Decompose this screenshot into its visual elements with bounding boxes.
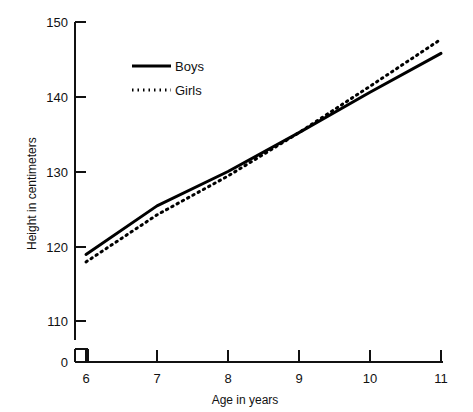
x-tick-label-8: 8 (224, 371, 231, 386)
y-tick-label-130: 130 (46, 165, 68, 180)
y-tick-label-120: 120 (46, 240, 68, 255)
x-tick-label-7: 7 (153, 371, 160, 386)
y-tick-label-140: 140 (46, 90, 68, 105)
y-tick-label-110: 110 (47, 314, 68, 329)
x-tick-label-9: 9 (295, 371, 302, 386)
height-vs-age-line-chart: 150 140 130 120 110 0 Height in centimet… (0, 0, 473, 412)
legend-label-girls: Girls (175, 83, 202, 98)
x-tick-label-11: 11 (434, 371, 448, 386)
y-tick-label-150: 150 (46, 15, 68, 30)
x-tick-label-10: 10 (363, 371, 377, 386)
x-axis-title: Age in years (212, 393, 279, 407)
chart-container: 150 140 130 120 110 0 Height in centimet… (0, 0, 473, 412)
chart-background (0, 0, 473, 412)
y-axis-title: Height in centimeters (25, 137, 39, 250)
legend-label-boys: Boys (175, 59, 204, 74)
y-tick-label-0: 0 (61, 355, 68, 370)
x-tick-label-6: 6 (82, 371, 89, 386)
